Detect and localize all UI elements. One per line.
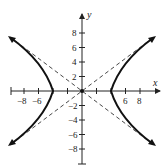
y-tick-label: 4 xyxy=(72,57,77,67)
y-tick-label: −2 xyxy=(68,101,78,111)
y-tick-label: −4 xyxy=(68,115,78,125)
y-tick-label: −6 xyxy=(68,130,78,140)
x-tick-label: 6 xyxy=(123,96,128,106)
hyperbola-chart: x y −8 −6 6 8 8 6 4 2 −2 −4 −6 −8 xyxy=(0,0,165,168)
y-tick-label: 6 xyxy=(72,43,77,53)
y-tick-label: 8 xyxy=(72,28,77,38)
y-tick-label: −8 xyxy=(68,144,78,154)
y-tick-label: 2 xyxy=(72,72,77,82)
x-tick-label: −8 xyxy=(17,96,27,106)
y-axis-label: y xyxy=(86,9,92,20)
origin-point xyxy=(80,89,84,93)
x-tick-label: 8 xyxy=(137,96,142,106)
x-tick-label: −6 xyxy=(32,96,42,106)
x-axis-label: x xyxy=(152,77,158,88)
